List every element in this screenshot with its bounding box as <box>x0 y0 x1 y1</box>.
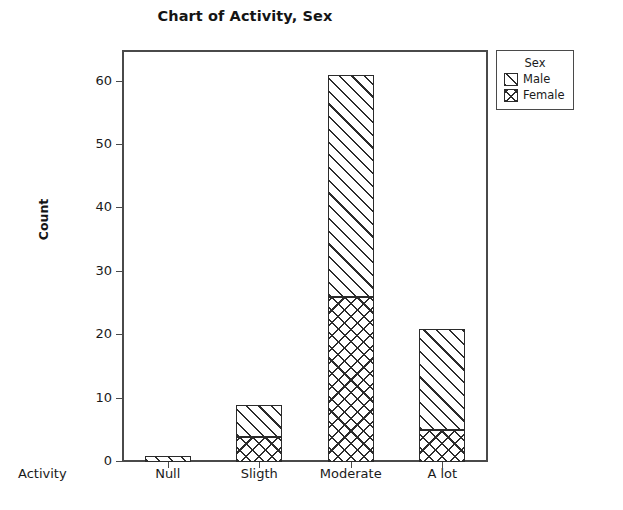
chart-container: Chart of Activity, Sex Count 01020304050… <box>0 0 623 510</box>
legend-item-male: Male <box>504 72 566 86</box>
x-tick-label: A lot <box>427 466 457 481</box>
bar-segment <box>236 405 282 437</box>
legend-title: Sex <box>504 56 566 70</box>
y-tick-label: 10 <box>72 390 112 405</box>
legend-label-male: Male <box>523 72 550 86</box>
x-tick-label: Moderate <box>320 466 382 481</box>
bar-segment <box>236 437 282 462</box>
x-tick-label: Sligth <box>241 466 278 481</box>
bar-segment <box>419 430 465 462</box>
y-axis-title: Count <box>36 175 51 265</box>
y-tick-label: 50 <box>72 136 112 151</box>
legend-swatch-female-icon <box>504 89 518 102</box>
x-tick-label: Null <box>155 466 180 481</box>
chart-title: Chart of Activity, Sex <box>0 8 490 24</box>
legend-swatch-male-icon <box>504 73 518 86</box>
y-tick-label: 60 <box>72 73 112 88</box>
x-axis-title: Activity <box>18 466 67 481</box>
y-tick-label: 40 <box>72 199 112 214</box>
legend-item-female: Female <box>504 88 566 102</box>
bar-segment <box>419 329 465 430</box>
y-tick-label: 20 <box>72 326 112 341</box>
y-tick-label: 0 <box>72 453 112 468</box>
bar-segment <box>328 297 374 462</box>
bar-segment <box>328 75 374 297</box>
y-tick-label: 30 <box>72 263 112 278</box>
legend-label-female: Female <box>523 88 565 102</box>
legend: Sex Male Female <box>496 50 574 110</box>
